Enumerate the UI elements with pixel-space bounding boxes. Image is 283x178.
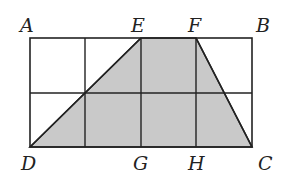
point-label-F: F [187, 14, 202, 36]
point-label-D: D [20, 152, 36, 174]
point-label-B: B [255, 14, 270, 36]
point-label-H: H [187, 152, 205, 174]
point-label-A: A [18, 14, 34, 36]
point-label-G: G [133, 152, 148, 174]
geometry-diagram: AEFBDGHC [0, 0, 283, 178]
point-label-C: C [258, 152, 273, 174]
point-label-E: E [130, 14, 145, 36]
